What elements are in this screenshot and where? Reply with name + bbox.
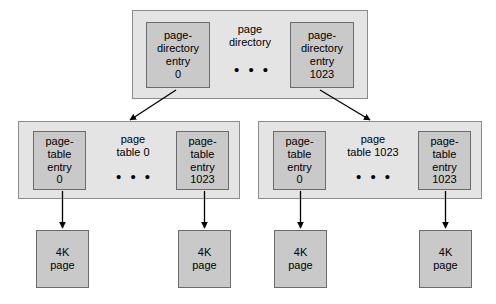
page-table-0-entry-0-line-2: table (48, 148, 72, 161)
page-table-1023-entry-1023-line-3: entry (432, 161, 456, 174)
page-frame-4-line-2: page (433, 259, 457, 272)
page-table-1023-entry-0-line-2: table (288, 148, 312, 161)
page-table-0-entry-0-line-3: entry (47, 161, 71, 174)
page-table-0-label-line-1: page (121, 133, 145, 146)
page-table-0-entry-1023-line-1: page- (188, 135, 216, 148)
page-table-0-label: page table 0 (95, 133, 171, 159)
page-frame-1[interactable]: 4K page (36, 230, 89, 288)
page-table-1023-entry-0-line-1: page- (285, 135, 313, 148)
page-frame-3-line-2: page (288, 259, 312, 272)
page-directory-entry-0-line-3: entry (166, 55, 190, 68)
page-table-1023-entry-0-line-3: entry (287, 161, 311, 174)
page-directory-entry-0-line-2: directory (157, 42, 199, 55)
page-directory-label-line-2: directory (229, 36, 271, 49)
page-table-1023-entry-1023-line-1: page- (430, 135, 458, 148)
page-frame-3[interactable]: 4K page (274, 230, 327, 288)
page-frame-3-line-1: 4K (294, 246, 307, 259)
page-directory-label: page directory (215, 23, 285, 49)
page-table-1023-label-line-2: table 1023 (347, 146, 398, 159)
page-table-0-entry-0-line-1: page- (45, 135, 73, 148)
page-table-1023-entry-0-line-4: 0 (296, 173, 302, 186)
page-frame-1-line-2: page (50, 259, 74, 272)
page-table-1023-entry-1023-line-2: table (433, 148, 457, 161)
page-table-0-entry-0-line-4: 0 (56, 173, 62, 186)
page-frame-1-line-1: 4K (56, 246, 69, 259)
page-table-1023-ellipsis: • • • (356, 169, 390, 184)
page-directory-label-line-1: page (238, 23, 262, 36)
page-table-0-entry-1023-line-4: 1023 (190, 173, 214, 186)
page-directory-entry-0[interactable]: page- directory entry 0 (146, 22, 210, 88)
page-directory-ellipsis: • • • (234, 62, 268, 77)
page-table-1023-label: page table 1023 (331, 133, 415, 159)
page-directory-entry-1023-line-4: 1023 (310, 68, 334, 81)
page-table-1023-label-line-1: page (361, 133, 385, 146)
page-frame-2[interactable]: 4K page (178, 230, 231, 288)
page-directory-entry-0-line-4: 0 (175, 68, 181, 81)
page-directory-entry-1023-line-2: directory (301, 42, 343, 55)
page-table-0-ellipsis: • • • (116, 169, 150, 184)
page-table-0-entry-1023[interactable]: page- table entry 1023 (176, 131, 229, 190)
page-table-0-label-line-2: table 0 (116, 146, 149, 159)
page-table-1023-entry-0[interactable]: page- table entry 0 (273, 131, 326, 190)
page-table-0-entry-0[interactable]: page- table entry 0 (33, 131, 86, 190)
page-frame-4[interactable]: 4K page (419, 230, 472, 288)
page-table-1023-entry-1023[interactable]: page- table entry 1023 (418, 131, 471, 190)
two-level-page-table-diagram: page- directory entry 0 page directory •… (0, 0, 496, 304)
page-directory-entry-1023-line-3: entry (310, 55, 334, 68)
page-table-0-entry-1023-line-3: entry (190, 161, 214, 174)
page-directory-entry-1023-line-1: page- (308, 29, 336, 42)
page-frame-2-line-1: 4K (198, 246, 211, 259)
page-table-1023-entry-1023-line-4: 1023 (432, 173, 456, 186)
page-frame-4-line-1: 4K (439, 246, 452, 259)
page-table-0-entry-1023-line-2: table (191, 148, 215, 161)
page-directory-entry-0-line-1: page- (164, 29, 192, 42)
page-directory-entry-1023[interactable]: page- directory entry 1023 (290, 22, 354, 88)
page-frame-2-line-2: page (192, 259, 216, 272)
